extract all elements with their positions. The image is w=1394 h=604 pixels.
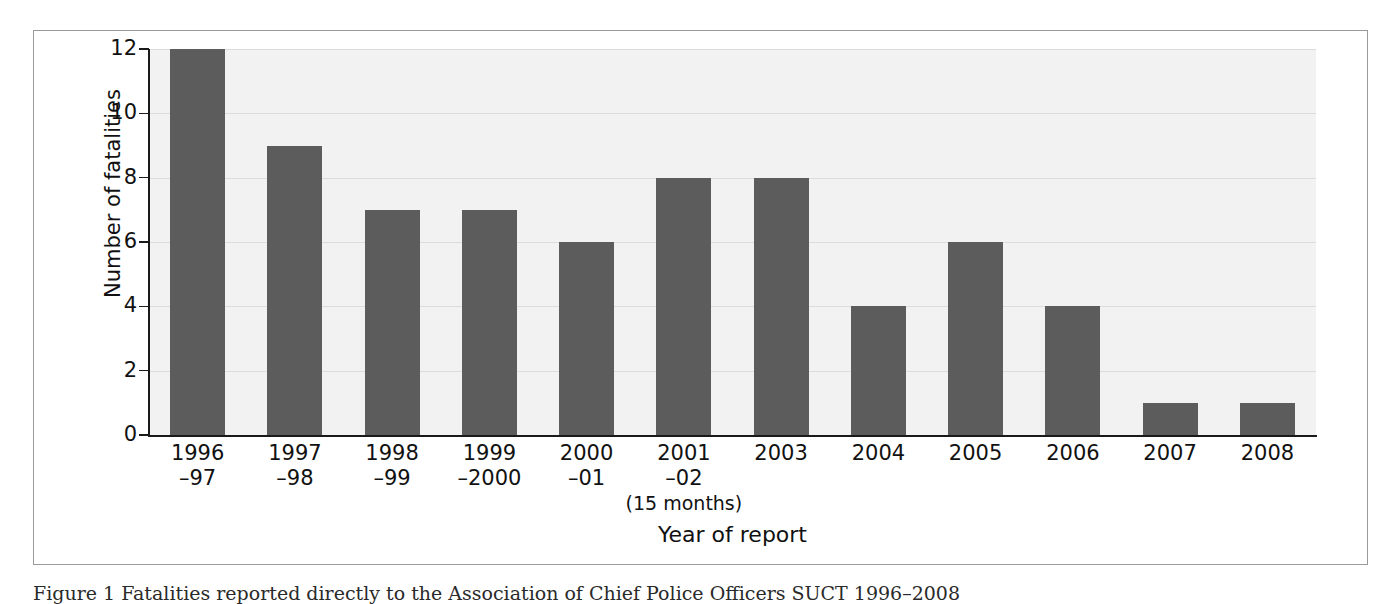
bar[interactable] [559,242,614,435]
plot-area [149,49,1316,435]
y-axis-tick-label: 8 [124,167,137,188]
y-axis-tick [139,241,149,243]
bar[interactable] [656,178,711,435]
x-label-line1: 2008 [1190,441,1346,466]
bar[interactable] [754,178,809,435]
figure-caption: Figure 1 Fatalities reported directly to… [33,582,1373,604]
bar[interactable] [267,146,322,436]
y-axis-tick [139,434,149,436]
x-axis-tick-labels: 1996–971997–981998–991999–20002000–01200… [149,441,1316,531]
bar[interactable] [851,306,906,435]
x-axis-line [148,435,1317,437]
bar[interactable] [462,210,517,435]
y-axis-tick [139,177,149,179]
bar-series [149,49,1316,435]
bar[interactable] [1240,403,1295,435]
y-axis-tick-label: 4 [124,295,137,316]
y-axis-tick-label: 10 [110,102,137,123]
y-axis-tick-label: 12 [110,38,137,59]
figure-frame: Number of fatalities 024681012 1996–9719… [33,30,1368,565]
y-axis-tick [139,370,149,372]
bar[interactable] [170,49,225,435]
y-axis-tick [139,306,149,308]
x-label-line3: (15 months) [606,491,762,515]
y-axis-tick [139,48,149,50]
y-axis-tick-label: 2 [124,360,137,381]
bar[interactable] [1143,403,1198,435]
y-axis-tick-label: 6 [124,231,137,252]
bar[interactable] [1045,306,1100,435]
bar[interactable] [365,210,420,435]
bar[interactable] [948,242,1003,435]
x-label-line2: –02 [606,466,762,491]
y-axis-tick [139,113,149,115]
x-axis-tick-label: 2008 [1190,441,1346,466]
x-axis-title: Year of report [149,523,1316,547]
